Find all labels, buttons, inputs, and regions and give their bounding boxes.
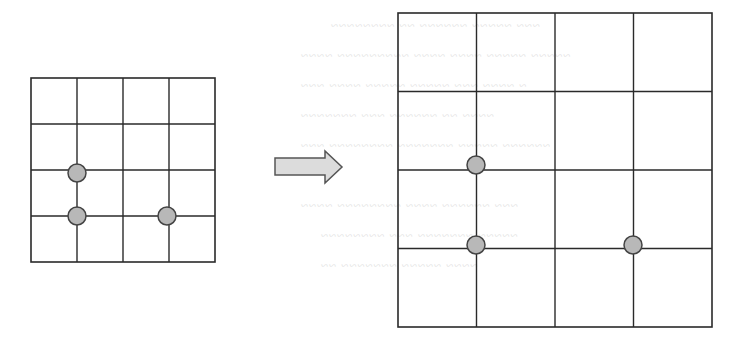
grid-dot [467, 236, 485, 254]
left-grid [31, 78, 215, 262]
right-grid [398, 13, 712, 327]
grid-dot [158, 207, 176, 225]
grid-dot [624, 236, 642, 254]
grid-dot [68, 207, 86, 225]
grid-dot [68, 164, 86, 182]
grid-dot [467, 156, 485, 174]
diagram-canvas [0, 0, 738, 343]
arrow-right-icon [275, 151, 342, 183]
